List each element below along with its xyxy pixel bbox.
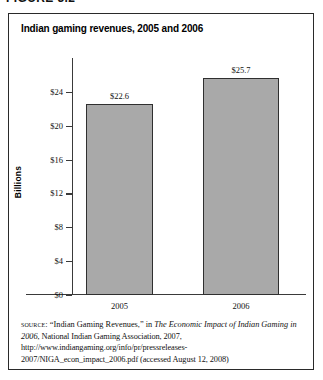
bar-chart-plot: $0 $4 $8 $12 $16 $20 $24 Billions $22.6 … bbox=[9, 14, 315, 304]
y-tick-label-20: $20 bbox=[50, 121, 63, 131]
source-note: source: “Indian Gaming Revenues,” in The… bbox=[21, 319, 303, 365]
figure-page: FIGURE 3.2 Indian gaming revenues, 2005 … bbox=[0, 0, 323, 380]
y-tick-24 bbox=[66, 92, 72, 93]
y-axis-label: Billions bbox=[13, 166, 23, 198]
bar-2005 bbox=[86, 104, 153, 295]
figure-frame: Indian gaming revenues, 2005 and 2006 $0… bbox=[8, 13, 314, 370]
y-tick-0 bbox=[66, 295, 72, 296]
bar-value-2006: $25.7 bbox=[203, 65, 279, 75]
source-label: source: bbox=[21, 319, 48, 329]
y-tick-label-4: $4 bbox=[55, 256, 64, 266]
figure-caption: FIGURE 3.2 bbox=[6, 0, 75, 5]
y-tick-label-0: $0 bbox=[55, 290, 64, 300]
y-tick-4 bbox=[66, 261, 72, 262]
x-tick-label-2006: 2006 bbox=[203, 301, 279, 311]
y-tick-12 bbox=[66, 193, 72, 194]
y-tick-label-12: $12 bbox=[50, 188, 63, 198]
bar-value-2005: $22.6 bbox=[86, 91, 153, 101]
y-tick-label-8: $8 bbox=[55, 222, 64, 232]
y-axis-line bbox=[72, 58, 73, 295]
source-text-part1: “Indian Gaming Revenues,” in bbox=[48, 320, 154, 329]
x-tick-label-2005: 2005 bbox=[86, 301, 153, 311]
y-tick-16 bbox=[66, 160, 72, 161]
y-tick-label-16: $16 bbox=[50, 155, 63, 165]
bar-2006 bbox=[203, 78, 279, 296]
y-tick-label-24: $24 bbox=[50, 87, 63, 97]
y-tick-20 bbox=[66, 126, 72, 127]
y-tick-8 bbox=[66, 227, 72, 228]
source-text-part2: , National Indian Gaming Association, 20… bbox=[21, 332, 229, 364]
